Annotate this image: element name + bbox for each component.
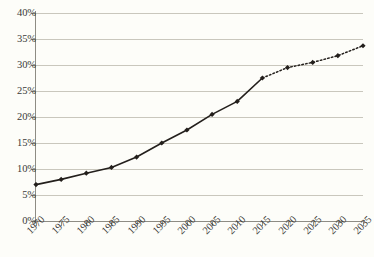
y-axis-tick-label: 20% <box>2 112 36 123</box>
y-axis-tick-label: 25% <box>2 86 36 97</box>
series-line-historical <box>36 78 262 185</box>
data-point-marker <box>335 53 340 58</box>
data-point-marker <box>84 171 89 176</box>
data-point-marker <box>360 43 365 48</box>
data-point-marker <box>310 60 315 65</box>
y-axis-tick-label: 10% <box>2 164 36 175</box>
y-axis-tick-label: 5% <box>2 190 36 201</box>
data-point-marker <box>59 177 64 182</box>
y-axis-tick-label: 15% <box>2 138 36 149</box>
y-axis-tick-label: 35% <box>2 34 36 45</box>
data-point-marker <box>285 65 290 70</box>
y-axis-tick-label: 40% <box>2 8 36 19</box>
data-point-marker <box>109 165 114 170</box>
data-point-marker <box>33 182 38 187</box>
y-axis-tick-label: 30% <box>2 60 36 71</box>
